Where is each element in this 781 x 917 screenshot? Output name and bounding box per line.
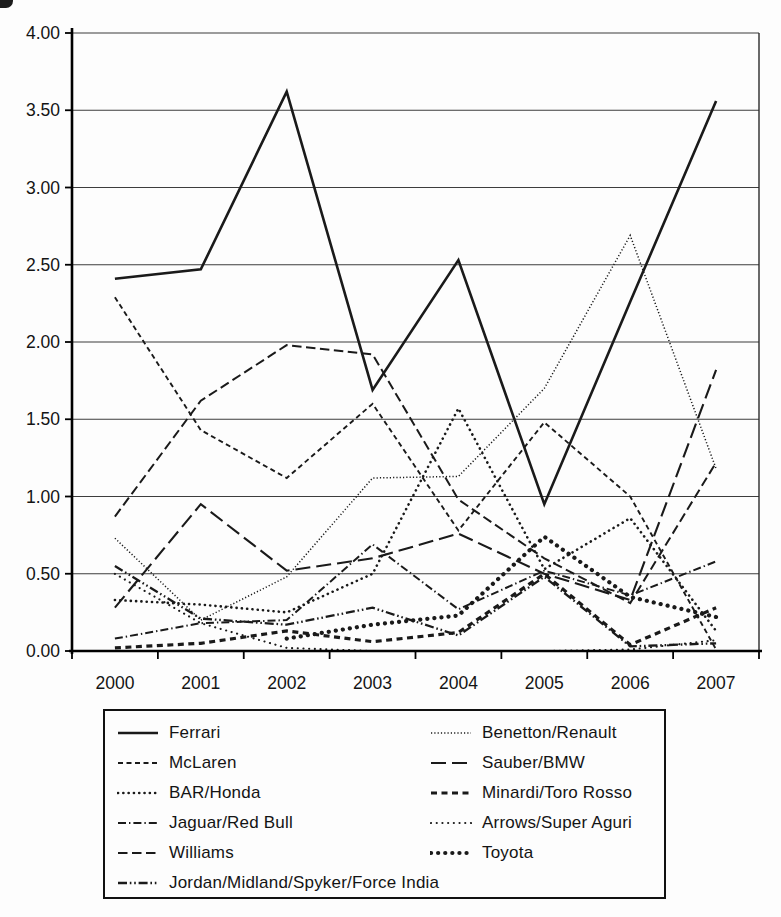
legend-item-jordan-midland-spyker-force-india: Jordan/Midland/Spyker/Force India — [117, 868, 439, 898]
legend-line-sample — [430, 726, 472, 740]
x-axis-tick-label: 2002 — [267, 673, 306, 693]
legend-item-label: Williams — [169, 843, 234, 863]
y-axis-tick-label: 0.50 — [26, 564, 60, 584]
legend-line-sample — [430, 756, 472, 770]
series-line-bar-honda — [115, 408, 716, 631]
y-axis-tick-label: 4.00 — [26, 23, 60, 43]
legend-item-ferrari: Ferrari — [117, 718, 439, 748]
legend-item-label: Arrows/Super Aguri — [482, 813, 632, 833]
legend-line-sample — [117, 816, 159, 830]
legend-line-sample — [117, 876, 159, 890]
legend-column-left: FerrariMcLarenBAR/HondaJaguar/Red BullWi… — [117, 718, 439, 898]
legend-item-mclaren: McLaren — [117, 748, 439, 778]
legend-item-toyota: Toyota — [430, 838, 632, 868]
legend: FerrariMcLarenBAR/HondaJaguar/Red BullWi… — [103, 709, 666, 899]
legend-item-label: Ferrari — [169, 723, 220, 743]
x-axis-tick-label: 2003 — [353, 673, 392, 693]
legend-item-label: Sauber/BMW — [482, 753, 585, 773]
legend-item-bar-honda: BAR/Honda — [117, 778, 439, 808]
legend-item-label: Jordan/Midland/Spyker/Force India — [169, 873, 439, 893]
legend-line-sample — [117, 756, 159, 770]
legend-line-sample — [117, 846, 159, 860]
legend-item-minardi-toro-rosso: Minardi/Toro Rosso — [430, 778, 632, 808]
x-axis-tick-label: 2005 — [525, 673, 564, 693]
series-line-ferrari — [115, 92, 716, 505]
y-axis-tick-label: 2.00 — [26, 332, 60, 352]
x-axis-tick-label: 2006 — [611, 673, 650, 693]
series-line-benetton-renault — [115, 235, 716, 620]
series-line-mclaren — [115, 297, 716, 649]
y-axis-tick-label: 1.50 — [26, 409, 60, 429]
legend-item-label: Jaguar/Red Bull — [169, 813, 293, 833]
legend-item-benetton-renault: Benetton/Renault — [430, 718, 632, 748]
y-axis-tick-label: 0.00 — [26, 641, 60, 661]
x-axis-tick-label: 2001 — [181, 673, 220, 693]
legend-item-label: McLaren — [169, 753, 237, 773]
legend-item-label: Toyota — [482, 843, 533, 863]
legend-item-sauber-bmw: Sauber/BMW — [430, 748, 632, 778]
legend-item-williams: Williams — [117, 838, 439, 868]
legend-column-right: Benetton/RenaultSauber/BMWMinardi/Toro R… — [430, 718, 632, 868]
series-line-minardi-toro-rosso — [115, 574, 716, 648]
legend-item-label: Minardi/Toro Rosso — [482, 783, 632, 803]
y-axis-tick-label: 2.50 — [26, 255, 60, 275]
legend-item-label: BAR/Honda — [169, 783, 261, 803]
series-line-sauber-bmw — [115, 370, 716, 608]
x-axis-tick-label: 2004 — [439, 673, 478, 693]
x-axis-tick-label: 2007 — [697, 673, 736, 693]
y-axis-tick-label: 1.00 — [26, 487, 60, 507]
legend-item-label: Benetton/Renault — [482, 723, 617, 743]
legend-line-sample — [430, 786, 472, 800]
legend-line-sample — [430, 816, 472, 830]
y-axis-tick-label: 3.00 — [26, 178, 60, 198]
series-line-williams — [115, 345, 716, 603]
legend-line-sample — [117, 786, 159, 800]
legend-item-jaguar-red-bull: Jaguar/Red Bull — [117, 808, 439, 838]
line-chart: 0.000.501.001.502.002.503.003.504.002000… — [0, 0, 781, 705]
series-line-arrows-super-aguri — [115, 574, 716, 651]
y-axis-tick-label: 3.50 — [26, 100, 60, 120]
legend-line-sample — [430, 846, 472, 860]
legend-item-arrows-super-aguri: Arrows/Super Aguri — [430, 808, 632, 838]
x-axis-tick-label: 2000 — [95, 673, 134, 693]
legend-line-sample — [117, 726, 159, 740]
scanned-line-chart-page: 0.000.501.001.502.002.503.003.504.002000… — [0, 0, 781, 917]
